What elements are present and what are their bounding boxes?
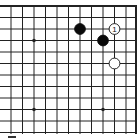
black-stone (75, 24, 86, 35)
white-stone (109, 58, 120, 69)
black-stone (98, 35, 109, 46)
stones: 1 (75, 24, 120, 69)
caption-mark (8, 136, 16, 138)
white-stone: 1 (109, 24, 120, 35)
star-point (101, 108, 105, 112)
star-point (32, 39, 36, 43)
move-number-label: 1 (112, 25, 117, 34)
star-point (32, 108, 36, 112)
go-board: 1 (0, 0, 139, 138)
